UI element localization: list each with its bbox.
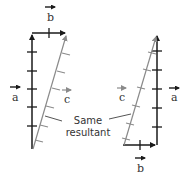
label-a: a: [171, 91, 178, 104]
right-diagram: c a b: [117, 36, 179, 175]
left-diagram: b a c: [10, 7, 71, 149]
callout-pointer-right: [109, 114, 131, 119]
resultant-c: [33, 36, 66, 149]
label-b: b: [137, 162, 144, 175]
left-label-a: a: [10, 87, 20, 104]
right-label-b: b: [135, 158, 145, 175]
label-c: c: [119, 91, 125, 104]
caption-line-1: Same: [74, 115, 102, 126]
caption-line-2: resultant: [66, 127, 111, 138]
left-label-c: c: [62, 90, 71, 106]
label-c: c: [64, 93, 70, 106]
label-a: a: [12, 91, 19, 104]
right-label-a: a: [169, 88, 179, 104]
vector-addition-diagram: b a c: [0, 0, 186, 182]
right-label-c: c: [117, 88, 126, 104]
callout-pointer-left: [45, 116, 62, 121]
label-b: b: [47, 11, 54, 24]
left-label-b: b: [45, 7, 55, 24]
same-resultant-callout: Same resultant: [45, 114, 131, 138]
